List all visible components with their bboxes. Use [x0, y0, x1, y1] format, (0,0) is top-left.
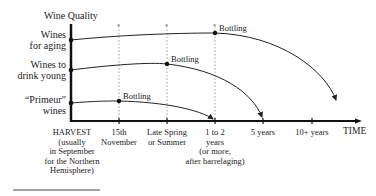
tick-15th-november: 15th November: [94, 128, 144, 147]
category-young-line1: Wines to: [31, 59, 66, 70]
svg-text:*: *: [165, 23, 168, 29]
bottling-label-aging: Bottling: [219, 24, 247, 34]
tick-10-plus-years: 10+ years: [287, 128, 337, 138]
category-aging-line2: for aging: [30, 40, 66, 51]
x-axis-title: TIME: [343, 127, 366, 137]
category-primeur-line2: wines: [43, 105, 66, 116]
bottling-label-young: Bottling: [171, 55, 199, 65]
category-primeur-line1: “Primeur”: [25, 94, 66, 105]
curve-primeur: [71, 101, 213, 119]
y-axis-title: Wine Quality: [44, 10, 98, 21]
bottling-label-primeur: Bottling: [123, 92, 151, 102]
curve-young: [71, 63, 262, 117]
svg-text:*: *: [213, 23, 216, 29]
svg-text:*: *: [117, 23, 120, 29]
curve-aging: [71, 33, 336, 100]
dotted-guides: [119, 26, 215, 121]
tick-5-years: 5 years: [238, 128, 288, 138]
category-aging-line1: Wines: [41, 29, 66, 40]
category-young-line2: drink young: [17, 70, 66, 81]
